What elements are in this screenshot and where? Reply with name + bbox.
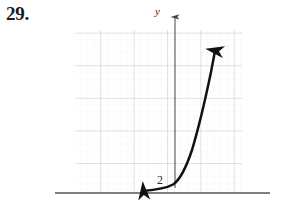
y-intercept-label: 2 — [157, 173, 163, 187]
grid-background — [75, 30, 242, 193]
y-axis-label: y — [154, 5, 160, 17]
figure-page: 29. — [0, 0, 282, 205]
graph-figure: y 2 — [0, 0, 282, 205]
